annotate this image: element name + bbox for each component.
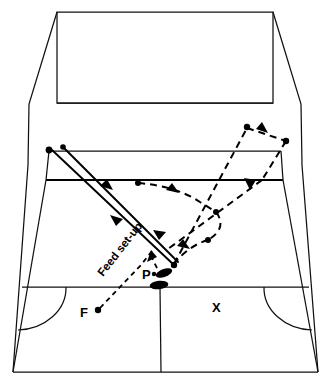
feeder-f-label: F xyxy=(80,305,88,320)
footprint-lower xyxy=(149,280,169,290)
footprint-upper xyxy=(155,266,174,279)
dash-arrow-mid-right xyxy=(166,183,179,193)
path-far-right-across xyxy=(247,128,286,141)
dot-feeder xyxy=(95,307,101,313)
path-mid-to-rear xyxy=(208,212,221,240)
dot-far-right-side xyxy=(283,138,289,144)
dash-arrow-feed-up xyxy=(147,250,157,262)
dot-centre-court xyxy=(213,209,219,215)
player-p-label: P xyxy=(142,267,151,282)
far-court-box xyxy=(57,12,273,103)
centre-service-line xyxy=(160,287,161,372)
feed-setup-label: Feed set-up xyxy=(95,220,144,278)
dash-arrow-net-right-down xyxy=(244,178,256,190)
dot-net-left-a xyxy=(46,147,53,154)
court-diagram-svg: Feed set-up P F X xyxy=(0,0,330,374)
net-post-left xyxy=(46,151,49,180)
dashed-path-group xyxy=(100,122,286,308)
dot-player-small xyxy=(152,272,156,276)
dot-far-right-top xyxy=(244,124,250,130)
left-corner-arc xyxy=(18,287,66,330)
court-diagram: Feed set-up P F X xyxy=(0,0,330,374)
dash-arrow-far-right-top xyxy=(256,122,268,133)
dot-midcourt-left xyxy=(135,180,141,186)
net-post-right xyxy=(281,151,283,180)
partner-x-label: X xyxy=(212,300,221,315)
court-outline-group xyxy=(13,12,318,372)
right-sideline-near xyxy=(283,180,318,372)
dot-rear-right xyxy=(205,237,211,243)
shot-arrow-upleft xyxy=(110,215,123,226)
right-corner-arc xyxy=(264,287,312,330)
dot-rally-end xyxy=(171,262,177,268)
left-sideline-near xyxy=(13,180,46,372)
dot-net-left-b xyxy=(60,144,66,150)
